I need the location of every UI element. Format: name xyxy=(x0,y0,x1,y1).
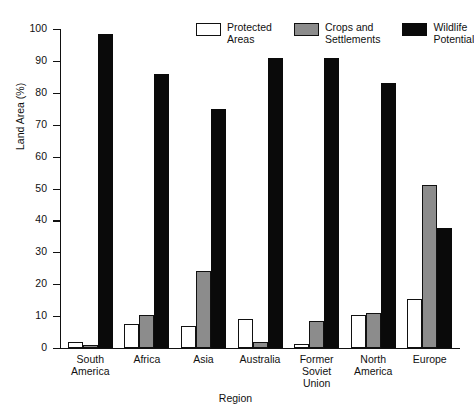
bar-group: North America xyxy=(345,29,402,348)
bar-wildlife[interactable] xyxy=(211,109,226,348)
x-axis-label: Region xyxy=(0,392,471,404)
y-tick-mark xyxy=(53,252,60,253)
y-tick: 70 xyxy=(53,125,60,126)
y-tick-mark xyxy=(53,157,60,158)
bar-group: Australia xyxy=(232,29,289,348)
bar-crops[interactable] xyxy=(139,315,154,348)
bar-protected[interactable] xyxy=(294,344,309,348)
y-tick-label: 90 xyxy=(35,54,47,67)
y-tick-label: 40 xyxy=(35,213,47,226)
bar-group-bars xyxy=(401,29,458,348)
y-tick-label: 50 xyxy=(35,182,47,195)
bar-group: Former Soviet Union xyxy=(288,29,345,348)
bar-protected[interactable] xyxy=(68,342,83,348)
bar-wildlife[interactable] xyxy=(98,34,113,348)
bar-group: South America xyxy=(62,29,119,348)
y-tick: 80 xyxy=(53,93,60,94)
bar-protected[interactable] xyxy=(407,299,422,348)
plot-area: 1009080706050403020100 South AmericaAfri… xyxy=(62,29,458,348)
bar-wildlife[interactable] xyxy=(154,74,169,348)
bar-wildlife[interactable] xyxy=(437,228,452,348)
bar-group: Africa xyxy=(119,29,176,348)
bar-protected[interactable] xyxy=(351,315,366,348)
y-tick: 10 xyxy=(53,316,60,317)
y-tick-label: 20 xyxy=(35,277,47,290)
y-tick-label: 10 xyxy=(35,309,47,322)
y-tick-mark xyxy=(53,189,60,190)
y-tick: 20 xyxy=(53,284,60,285)
y-tick-label: 30 xyxy=(35,245,47,258)
y-tick-mark xyxy=(53,61,60,62)
bar-protected[interactable] xyxy=(181,326,196,348)
bar-group: Europe xyxy=(401,29,458,348)
y-tick-label: 80 xyxy=(35,86,47,99)
y-tick: 90 xyxy=(53,61,60,62)
y-tick: 30 xyxy=(53,252,60,253)
y-tick-label: 70 xyxy=(35,118,47,131)
y-axis-label: Land Area (%) xyxy=(14,83,26,150)
bar-wildlife[interactable] xyxy=(381,83,396,348)
bar-crops[interactable] xyxy=(253,342,268,348)
bar-group: Asia xyxy=(175,29,232,348)
y-tick-mark xyxy=(53,316,60,317)
bar-crops[interactable] xyxy=(422,185,437,348)
y-tick-mark xyxy=(53,29,60,30)
bar-group-bars xyxy=(232,29,289,348)
bar-wildlife[interactable] xyxy=(324,58,339,348)
bar-crops[interactable] xyxy=(366,313,381,348)
y-tick: 100 xyxy=(53,29,60,30)
y-tick: 0 xyxy=(53,348,60,349)
bar-crops[interactable] xyxy=(309,321,324,348)
bar-crops[interactable] xyxy=(196,271,211,348)
bar-group-bars xyxy=(175,29,232,348)
bar-group-bars xyxy=(345,29,402,348)
y-tick-mark xyxy=(53,125,60,126)
x-tick-label: Europe xyxy=(395,353,465,365)
bar-protected[interactable] xyxy=(238,319,253,348)
y-tick: 60 xyxy=(53,157,60,158)
bar-crops[interactable] xyxy=(83,345,98,348)
y-tick-label: 100 xyxy=(29,22,47,35)
y-tick-label: 60 xyxy=(35,150,47,163)
bar-group-bars xyxy=(62,29,119,348)
y-tick-mark xyxy=(53,220,60,221)
y-tick-mark xyxy=(53,348,60,349)
y-tick-mark xyxy=(53,93,60,94)
bar-group-bars xyxy=(288,29,345,348)
bar-groups: South AmericaAfricaAsiaAustraliaFormer S… xyxy=(62,29,458,348)
y-tick-mark xyxy=(53,284,60,285)
y-tick-label: 0 xyxy=(41,341,47,354)
bar-wildlife[interactable] xyxy=(268,58,283,348)
bar-group-bars xyxy=(119,29,176,348)
y-tick: 50 xyxy=(53,189,60,190)
bar-protected[interactable] xyxy=(124,324,139,348)
y-tick: 40 xyxy=(53,220,60,221)
